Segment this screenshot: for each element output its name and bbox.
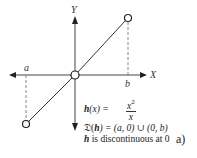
fraction: x2 x	[126, 97, 136, 122]
y-axis-up-arrow-icon	[72, 16, 78, 24]
discontinuity-statement: h is discontinuous at 0	[84, 134, 170, 145]
domain-rest: ) = (a, 0) ∪ (0, b)	[99, 123, 167, 133]
x-axis-left-arrow-icon	[9, 72, 16, 78]
x-axis-label: X	[150, 70, 156, 80]
point-b-label: b	[125, 79, 130, 89]
discontinuity-rest: is discontinuous at 0	[89, 134, 169, 144]
panel-label: a)	[176, 132, 185, 147]
function-arg: (x) =	[89, 104, 108, 114]
function-line-lower	[29, 78, 73, 122]
fraction-denominator: x	[126, 112, 136, 122]
open-circle-origin-icon	[71, 71, 79, 79]
domain-symbol: 𝔇(	[84, 123, 94, 133]
function-definition: h(x) =	[84, 104, 109, 115]
fraction-numerator: x2	[126, 97, 136, 112]
y-axis-label: Y	[71, 5, 77, 15]
function-line-upper	[78, 21, 126, 73]
point-a-label: a	[24, 63, 29, 73]
open-circle-upper-right-icon	[125, 15, 132, 22]
y-axis-down-arrow-icon	[72, 123, 78, 131]
open-circle-lower-left-icon	[23, 121, 30, 128]
x-axis-right-arrow-icon	[140, 72, 147, 78]
domain-statement: 𝔇(h) = (a, 0) ∪ (0, b)	[84, 123, 168, 134]
